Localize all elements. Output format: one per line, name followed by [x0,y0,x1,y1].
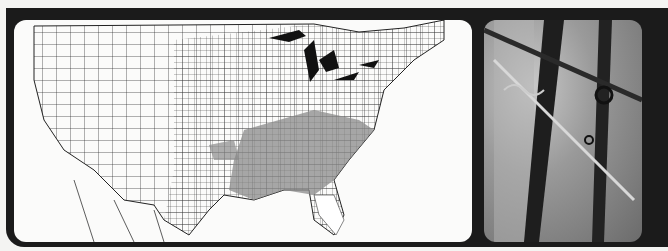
distribution-map [14,20,472,242]
plant-photo [484,20,642,242]
